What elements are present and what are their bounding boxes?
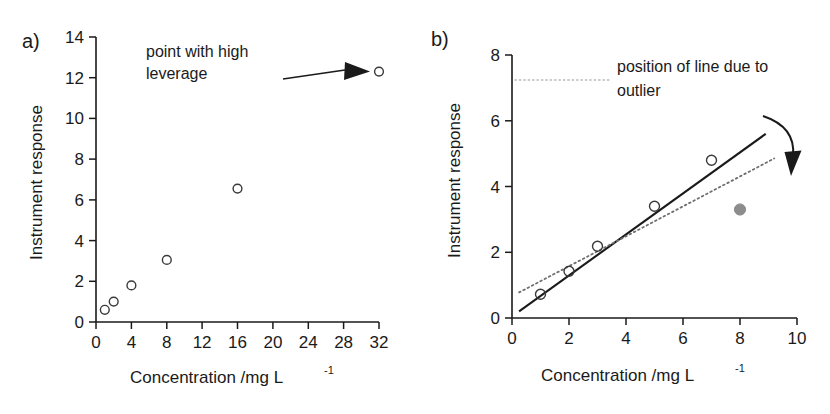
panel-b-x-ticks <box>512 318 797 325</box>
data-point <box>162 256 171 265</box>
panel-a-xtick-0: 0 <box>91 333 100 352</box>
panel-a-chart: a) Instrument response 14 12 10 <box>0 0 415 414</box>
data-point <box>100 305 109 314</box>
panel-a-x-axis-title-sup: -1 <box>324 364 334 376</box>
panel-b-x-axis-title-sup: -1 <box>735 362 745 374</box>
panel-a-annotation-line2: leverage <box>146 65 207 82</box>
panel-b-x-axis-title: Concentration /mg L -1 <box>541 362 745 385</box>
panel-b-ytick-8: 8 <box>491 46 500 65</box>
panel-a-ytick-0: 0 <box>75 313 84 332</box>
panel-b-ytick-0: 0 <box>491 309 500 328</box>
panel-a-ytick-6: 6 <box>75 191 84 210</box>
figure-container: a) Instrument response 14 12 10 <box>0 0 830 414</box>
panel-a-x-ticks <box>96 322 379 329</box>
panel-a-ytick-2: 2 <box>75 272 84 291</box>
panel-b-x-axis-title-main: Concentration /mg L <box>541 366 694 385</box>
panel-b-xtick-8: 8 <box>735 329 744 348</box>
panel-a-ytick-8: 8 <box>75 150 84 169</box>
panel-b-ytick-6: 6 <box>491 112 500 131</box>
regression-line-solid <box>519 134 766 312</box>
panel-b-annotation-line2: outlier <box>617 82 661 99</box>
panel-b-annotation: position of line due to outlier <box>515 58 768 99</box>
panel-b-y-tick-labels: 8 6 4 2 0 <box>491 46 500 328</box>
panel-a-xtick-20: 20 <box>263 333 282 352</box>
panel-a-annotation-line1: point with high <box>146 43 248 60</box>
data-point-high-leverage <box>375 67 384 76</box>
panel-a-x-axis-title: Concentration /mg L -1 <box>130 364 334 387</box>
panel-b-annotation-line1: position of line due to <box>617 58 768 75</box>
panel-a-ytick-10: 10 <box>65 109 84 128</box>
panel-a-xtick-8: 8 <box>162 333 171 352</box>
data-point <box>650 201 660 211</box>
panel-b-y-ticks <box>505 55 512 318</box>
panel-a-ytick-12: 12 <box>65 69 84 88</box>
panel-b-xtick-4: 4 <box>621 329 630 348</box>
data-point <box>127 281 136 290</box>
data-point <box>707 155 717 165</box>
panel-a-annotation: point with high leverage <box>146 43 248 82</box>
panel-a-xtick-24: 24 <box>299 333 318 352</box>
panel-a-x-tick-labels: 0 4 8 12 16 20 24 28 32 <box>91 333 388 352</box>
panel-b-ytick-4: 4 <box>491 178 500 197</box>
panel-a-y-ticks <box>89 37 96 322</box>
panel-b-ytick-2: 2 <box>491 243 500 262</box>
panel-a-ytick-4: 4 <box>75 232 84 251</box>
panel-a-xtick-32: 32 <box>370 333 389 352</box>
panel-a: a) Instrument response 14 12 10 <box>0 0 415 414</box>
panel-a-xtick-28: 28 <box>334 333 353 352</box>
panel-b-y-axis-title: Instrument response <box>445 103 464 258</box>
panel-b-annotation-arrow-icon <box>763 116 802 176</box>
data-point <box>109 297 118 306</box>
panel-a-label: a) <box>22 30 40 52</box>
panel-b-xtick-2: 2 <box>564 329 573 348</box>
panel-b-xtick-10: 10 <box>788 329 807 348</box>
panel-b-label: b) <box>431 28 449 50</box>
panel-a-x-axis-title-main: Concentration /mg L <box>130 368 283 387</box>
regression-line-dotted <box>519 159 774 293</box>
panel-a-data-points <box>100 67 383 314</box>
data-point <box>233 184 242 193</box>
panel-a-annotation-arrow-icon <box>283 62 370 80</box>
panel-b-xtick-6: 6 <box>678 329 687 348</box>
panel-a-ytick-14: 14 <box>65 28 84 47</box>
panel-a-xtick-16: 16 <box>228 333 247 352</box>
panel-b: b) Instrument response 8 6 4 2 0 <box>415 0 830 414</box>
data-point-outlier <box>734 204 745 215</box>
panel-b-xtick-0: 0 <box>507 329 516 348</box>
panel-b-chart: b) Instrument response 8 6 4 2 0 <box>415 0 830 414</box>
panel-a-y-axis-title: Instrument response <box>27 105 46 260</box>
panel-a-xtick-12: 12 <box>193 333 212 352</box>
panel-b-x-tick-labels: 0 2 4 6 8 10 <box>507 329 806 348</box>
panel-a-y-tick-labels: 14 12 10 8 6 4 2 0 <box>65 28 84 332</box>
data-point <box>593 241 603 251</box>
panel-a-xtick-4: 4 <box>127 333 136 352</box>
